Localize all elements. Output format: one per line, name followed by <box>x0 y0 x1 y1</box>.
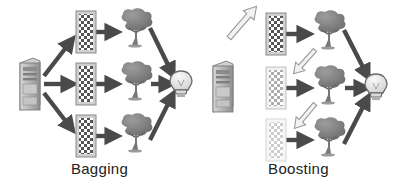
server-icon <box>213 61 233 112</box>
arrow-tree-3-to-result <box>150 96 172 140</box>
lightbulb-icon <box>365 74 387 99</box>
panel-caption-boosting: Boosting <box>199 160 398 177</box>
checkerboard-sample-icon <box>266 119 286 161</box>
decision-tree-icon <box>122 8 153 47</box>
panel-bagging: Bagging <box>0 0 199 193</box>
checkerboard-sample-icon <box>266 67 286 109</box>
checkerboard-sample-icon <box>76 11 96 53</box>
arrow-source-to-sample-1 <box>44 41 71 76</box>
server-icon <box>20 58 40 110</box>
checkerboard-sample-icon <box>266 13 286 55</box>
decision-tree-icon <box>315 65 346 104</box>
arrow-tree-1-to-result <box>150 28 172 73</box>
checkerboard-sample-icon <box>76 115 96 157</box>
arrow-tree-3-to-result <box>344 99 367 144</box>
panel-caption-bagging: Bagging <box>0 160 199 177</box>
arrow-source-to-sample-1 <box>224 2 262 43</box>
arrow-tree-1-to-result <box>344 30 367 75</box>
lightbulb-icon <box>170 71 192 96</box>
panel-boosting: Boosting <box>199 0 398 193</box>
decision-tree-icon <box>122 61 153 100</box>
arrow-source-to-sample-3 <box>44 93 71 128</box>
decision-tree-icon <box>122 113 153 152</box>
decision-tree-icon <box>315 117 346 156</box>
checkerboard-sample-icon <box>76 63 96 105</box>
decision-tree-icon <box>315 10 346 49</box>
ensemble-diagram: Bagging <box>0 0 398 193</box>
